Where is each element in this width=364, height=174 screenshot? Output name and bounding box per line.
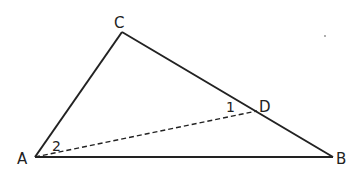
stray-dot xyxy=(324,35,326,37)
segment-cb xyxy=(122,32,333,157)
point-label-a: A xyxy=(17,150,28,168)
diagram-svg: A B C D 1 2 xyxy=(0,0,364,174)
angle-label-2: 2 xyxy=(52,138,61,154)
segment-ac xyxy=(35,32,122,157)
segment-ad-dashed xyxy=(35,111,257,157)
point-label-d: D xyxy=(259,98,271,116)
point-label-b: B xyxy=(336,150,346,168)
angle-label-1: 1 xyxy=(226,99,235,115)
triangle-diagram: A B C D 1 2 xyxy=(0,0,364,174)
point-label-c: C xyxy=(114,14,124,32)
